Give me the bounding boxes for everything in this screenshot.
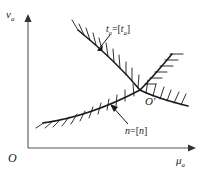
curve-n-line	[43, 54, 172, 123]
curve-ta-label: ta=[ta]	[106, 24, 130, 36]
y-axis-arrowhead	[24, 14, 31, 22]
curve-ta-line	[78, 30, 188, 106]
figure-canvas: va μa O O' ta=[ta] n=[n]	[0, 0, 204, 179]
curve-n-label: n=[n]	[125, 126, 147, 136]
x-axis-arrowhead	[188, 144, 196, 151]
curve-n-group	[36, 54, 183, 128]
y-axis-label: va	[6, 9, 14, 23]
curve-n-hatching	[36, 54, 183, 128]
origin-label: O	[8, 152, 17, 164]
leader-lines-group	[97, 35, 128, 124]
x-axis-label: μa	[176, 155, 185, 169]
intersection-label: O'	[145, 96, 155, 107]
diagram-svg	[0, 0, 204, 179]
